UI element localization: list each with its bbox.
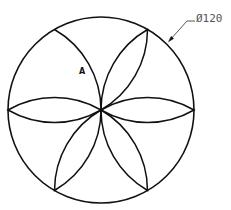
diameter-dimension-label: Ø120 bbox=[196, 13, 223, 25]
petals bbox=[8, 30, 194, 191]
drawing-canvas: A Ø120 bbox=[0, 0, 231, 210]
dimension-leader bbox=[169, 21, 195, 42]
leader-line bbox=[170, 21, 195, 40]
petal-left bbox=[8, 98, 101, 123]
region-label-a: A bbox=[79, 67, 85, 76]
rosette-drawing bbox=[0, 0, 231, 210]
petal-right bbox=[101, 98, 194, 123]
